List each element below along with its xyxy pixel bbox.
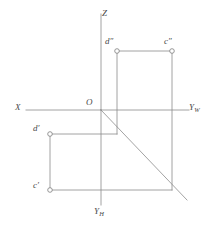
point-marker-d-double-prime: [115, 49, 120, 54]
axis-label-yh-subscript: H: [99, 210, 104, 217]
point-label-d-prime-mark: ′: [38, 123, 40, 133]
axis-label-x: X: [15, 103, 21, 112]
point-label-c-prime: c′: [33, 181, 39, 190]
point-marker-d-prime: [48, 132, 53, 137]
point-marker-c-double-prime: [170, 49, 175, 54]
origin-label: O: [86, 98, 93, 107]
point-label-d-double-prime: d″: [105, 37, 113, 46]
axis-label-z: Z: [102, 9, 107, 18]
axis-label-yw-subscript: W: [194, 106, 199, 113]
point-label-d-prime: d′: [33, 124, 39, 133]
bisector-line: [101, 110, 187, 200]
point-label-c-prime-mark: ′: [37, 180, 39, 190]
point-label-d-double-prime-mark: ″: [110, 36, 114, 46]
diagram-canvas: [0, 0, 217, 228]
point-marker-c-prime: [48, 188, 53, 193]
point-label-c-double-prime: c″: [164, 37, 172, 46]
point-label-c-double-prime-mark: ″: [168, 36, 172, 46]
axis-label-yh: YH: [94, 207, 104, 216]
projection-diagram: Z X YW YH O d″ c″ d′ c′: [0, 0, 217, 228]
axis-label-yw: YW: [189, 103, 199, 112]
